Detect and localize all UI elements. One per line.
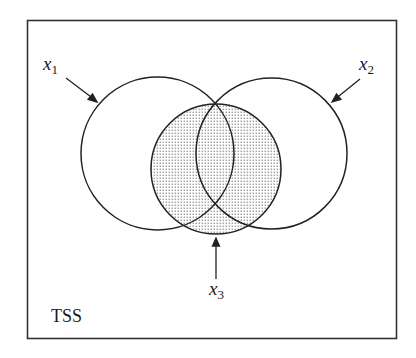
label-tss: TSS (51, 306, 82, 326)
venn-diagram: x1 x2 x3 TSS (0, 0, 416, 358)
